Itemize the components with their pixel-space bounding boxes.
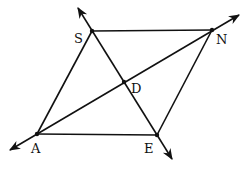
segment-sn bbox=[92, 30, 212, 31]
label-a: A bbox=[30, 141, 41, 156]
point-d bbox=[122, 80, 126, 84]
segment-ea bbox=[37, 134, 157, 135]
point-e bbox=[155, 133, 159, 137]
point-a bbox=[35, 132, 39, 136]
point-n bbox=[210, 28, 214, 32]
label-e: E bbox=[144, 141, 154, 156]
label-s: S bbox=[74, 31, 83, 46]
label-n: N bbox=[216, 32, 227, 47]
segment-ne bbox=[157, 30, 212, 135]
point-s bbox=[90, 29, 94, 33]
geometry-diagram: S N A E D bbox=[0, 0, 251, 169]
label-d: D bbox=[131, 81, 141, 96]
